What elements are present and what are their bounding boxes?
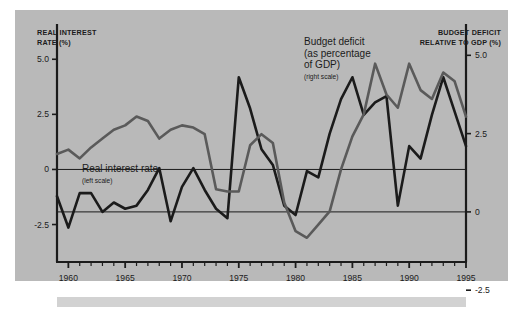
series-annotation-real-interest-rate-sub: (left scale) [82,175,158,187]
right-axis-tick-label: 5.0 [475,50,487,60]
chart-plot-area: 5.02.50-2.55.02.50-2.5196019651970197519… [0,0,523,316]
x-axis-tick-label: 1985 [343,273,362,283]
x-axis-tick-label: 1970 [172,273,191,283]
chart-figure: 5.02.50-2.55.02.50-2.5196019651970197519… [0,0,523,316]
right-axis-tick-label: 0 [475,207,480,217]
x-axis-tick-label: 1960 [59,273,78,283]
series-annotation-budget-deficit-main: Budget deficit (as percentage of GDP) [304,36,371,71]
left-axis-tick-label: -2.5 [34,220,49,230]
left-axis-title: REAL INTEREST RATE (%) [37,28,97,47]
series-annotation-real-interest-rate-main: Real interest rate [82,163,158,175]
left-axis-tick-label: 5.0 [37,54,49,64]
left-axis-tick-label: 2.5 [37,109,49,119]
series-line-budget-deficit [57,77,466,227]
right-axis-title: BUDGET DEFICIT RELATIVE TO GDP (%) [393,28,501,47]
x-axis-tick-label: 1975 [229,273,248,283]
x-axis-tick-label: 1990 [400,273,419,283]
x-axis-tick-label: 1980 [286,273,305,283]
x-axis-tick-label: 1965 [116,273,135,283]
right-axis-tick-label: 2.5 [475,129,487,139]
left-axis-tick-label: 0 [44,164,49,174]
right-axis-tick-label: -2.5 [475,285,490,295]
series-annotation-budget-deficit: Budget deficit (as percentage of GDP) (r… [304,36,371,83]
series-annotation-budget-deficit-sub: (right scale) [304,71,371,83]
series-annotation-real-interest-rate: Real interest rate (left scale) [82,163,158,187]
x-axis-tick-label: 1995 [456,273,475,283]
